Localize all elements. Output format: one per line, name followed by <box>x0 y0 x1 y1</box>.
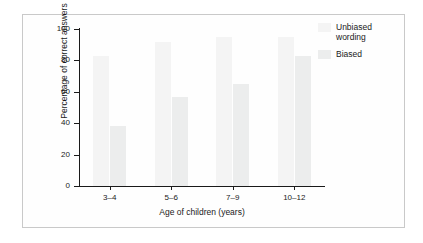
bar-unbiased <box>278 37 294 186</box>
bar-unbiased <box>93 56 109 186</box>
legend-item-biased[interactable]: Biased <box>318 49 404 59</box>
y-axis-tick <box>74 186 79 187</box>
legend-swatch-unbiased-icon <box>318 23 331 32</box>
legend-label-unbiased: Unbiasedwording <box>336 22 372 42</box>
x-axis-tick <box>171 186 172 190</box>
x-axis-tick-label: 3–4 <box>86 193 134 202</box>
y-axis-tick <box>74 155 79 156</box>
bar-biased <box>110 126 126 186</box>
y-axis-tick <box>74 29 79 30</box>
y-axis-tick <box>74 92 79 93</box>
x-axis-tick <box>110 186 111 190</box>
legend: Unbiasedwording Biased <box>318 22 404 66</box>
x-axis-tick <box>294 186 295 190</box>
bar-biased <box>295 56 311 186</box>
y-axis-title: Percentage of correct answers <box>59 0 69 141</box>
x-axis-tick <box>233 186 234 190</box>
y-axis-line <box>79 28 80 187</box>
bar-unbiased <box>155 42 171 186</box>
legend-label-biased: Biased <box>336 49 362 59</box>
x-axis-title: Age of children (years) <box>79 207 325 217</box>
legend-swatch-biased-icon <box>318 50 331 59</box>
figure: 020406080100 3–45–67–910–12 Percentage o… <box>0 0 423 243</box>
legend-item-unbiased[interactable]: Unbiasedwording <box>318 22 404 42</box>
bar-biased <box>233 84 249 186</box>
bar-biased <box>172 97 188 186</box>
y-axis-tick-label: 20 <box>48 151 70 159</box>
y-axis-tick-label: 0 <box>48 182 70 190</box>
x-axis-tick-label: 7–9 <box>209 193 257 202</box>
x-axis-tick-label: 5–6 <box>147 193 195 202</box>
y-axis-tick <box>74 60 79 61</box>
x-axis-line <box>79 186 325 187</box>
bar-unbiased <box>216 37 232 186</box>
y-axis-tick <box>74 123 79 124</box>
x-axis-tick-label: 10–12 <box>270 193 318 202</box>
